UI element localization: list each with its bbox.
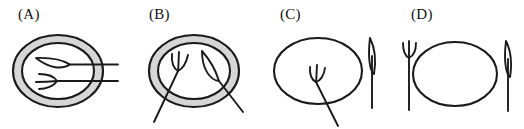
panel-b-label: (B) bbox=[149, 5, 170, 23]
plate-c bbox=[274, 38, 362, 104]
panel-a-artwork bbox=[0, 26, 131, 129]
panel-b: (B) bbox=[131, 0, 262, 129]
panel-d-artwork bbox=[393, 26, 524, 129]
knife-d bbox=[505, 41, 511, 111]
knife-c bbox=[369, 38, 375, 108]
plate-inner-edge-a bbox=[22, 43, 94, 99]
panel-c-label: (C) bbox=[280, 5, 301, 23]
fork-tine-middle-c bbox=[316, 65, 317, 82]
plate-outer-edge-c bbox=[274, 38, 362, 104]
fork-tine-middle-b bbox=[178, 52, 179, 71]
panel-d: (D) bbox=[393, 0, 524, 129]
panel-c-artwork bbox=[262, 26, 393, 129]
plate-d bbox=[413, 42, 497, 106]
panel-d-label: (D) bbox=[411, 5, 433, 23]
figure-canvas: (A) bbox=[0, 0, 524, 129]
plate-b bbox=[149, 35, 239, 107]
plate-a bbox=[13, 35, 103, 107]
panel-a: (A) bbox=[0, 0, 131, 129]
fork-tine-right-d bbox=[409, 43, 416, 58]
panel-a-label: (A) bbox=[18, 5, 40, 23]
panel-b-artwork bbox=[131, 26, 262, 129]
fork-tine-middle-a bbox=[36, 81, 57, 82]
panel-c: (C) bbox=[262, 0, 393, 129]
plate-outer-edge-d bbox=[413, 42, 497, 106]
